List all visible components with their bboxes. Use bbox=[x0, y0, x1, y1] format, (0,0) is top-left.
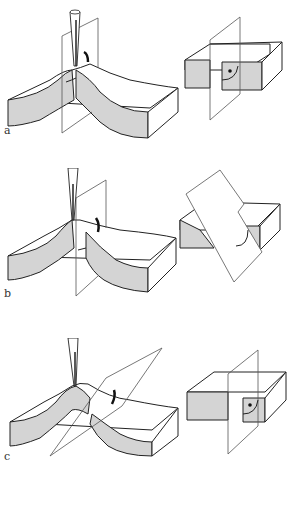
panel-a-illustration bbox=[0, 0, 289, 168]
panel-a: a bbox=[0, 0, 289, 168]
panel-c: c bbox=[0, 338, 289, 514]
panel-b: b bbox=[0, 168, 289, 338]
panel-label-b: b bbox=[4, 287, 11, 300]
panel-b-illustration bbox=[0, 168, 289, 338]
panel-label-a: a bbox=[4, 124, 11, 137]
panel-label-c: c bbox=[4, 450, 10, 463]
panel-c-illustration bbox=[0, 338, 289, 514]
